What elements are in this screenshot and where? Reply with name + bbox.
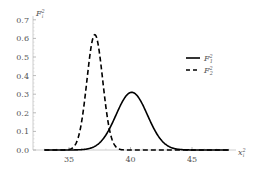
plot-lines [44, 35, 229, 150]
x-tick-label: 45 [187, 155, 197, 164]
legend-label: F22 [203, 65, 213, 76]
y-tick-label: 0.1 [16, 127, 29, 136]
y-tick-label: 0.5 [16, 53, 29, 62]
series-f2-dashed-line [44, 35, 229, 150]
series-f1-solid-line [44, 92, 229, 150]
y-tick-label: 0.0 [16, 146, 29, 155]
x-axis-label: x2i [238, 147, 246, 158]
y-tick-label: 0.3 [16, 90, 29, 99]
y-tick-label: 0.2 [16, 109, 29, 118]
y-axis-label: F2i [35, 8, 45, 19]
y-tick-label: 0.4 [16, 72, 29, 81]
legend: F21F22 [186, 53, 213, 76]
axes [33, 16, 236, 150]
legend-label: F21 [203, 53, 213, 64]
x-tick-label: 40 [125, 155, 135, 164]
x-tick-label: 35 [64, 155, 74, 164]
line-chart: 0.00.10.20.30.40.50.60.7 354045 F21F22 F… [0, 0, 255, 171]
y-tick-label: 0.6 [16, 34, 29, 43]
y-tick-label: 0.7 [16, 16, 29, 25]
